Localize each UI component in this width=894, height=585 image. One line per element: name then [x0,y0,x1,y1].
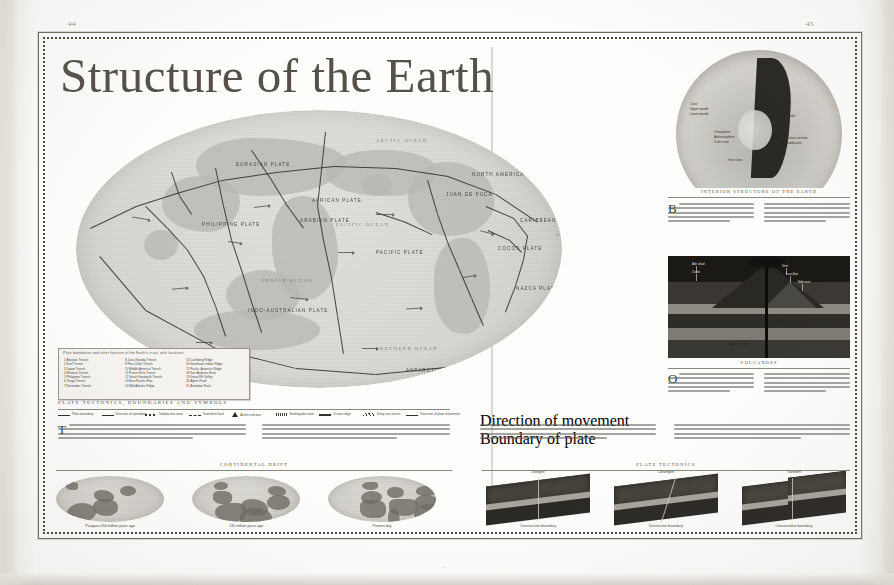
text-line [674,433,850,435]
text-line [480,437,607,439]
text-line [480,428,656,430]
volcano-label-6: Conduit [774,318,784,322]
text-line [674,428,850,430]
text-line [58,428,246,430]
continental-drift-caption-3: Present day [328,524,436,528]
text-line [764,203,850,205]
map-key-column-1: 1 Aleutian Trench2 Kuril Trench3 Japan T… [64,358,124,388]
right-text-3-column-2 [674,424,850,441]
earth-layer-label-6: Inner core [728,158,742,162]
right-text-3-column-1 [480,424,656,441]
earth-cutaway-caption: INTERIOR STRUCTURE OF THE EARTH [668,189,850,194]
map-plate-label-12: SCOTIA PLATE [554,348,562,353]
right-body-text-1: B [668,203,850,243]
text-line [764,386,850,388]
text-line [674,424,850,426]
map-key-item: 21 Anatolian Fault [186,384,246,388]
plate-tectonics-figure: PLATE TECTONICS DivergentConstructive bo… [482,462,850,534]
text-line [764,373,850,375]
volcano-layer-3 [668,314,850,328]
continental-drift-caption-2: 135 million years ago [192,524,300,528]
text-line [764,207,850,209]
dotted-band-icon [276,413,288,416]
right-text-2-column-1: O [668,373,754,394]
volcano-cross-section: Ash cloudCraterVentLava flowSide ventMag… [668,256,850,358]
symbol-legend-item: Transform fault [189,412,224,416]
volcano-rule [668,368,850,369]
earth-layer-label-3: Lithosphere [714,130,730,134]
thick-line-icon [319,414,331,416]
text-line [668,220,730,222]
left-text-column-1: T [58,424,246,441]
symbol-legend-item: Direction of plate movement [406,412,460,416]
map-plate-label-2: PACIFIC PLATE [376,250,424,255]
text-line [58,433,246,435]
plate-block-3: Transform [738,478,850,522]
symbol-legend-label: Subduction zone [159,412,183,416]
map-plate-label-1: NORTH AMERICAN PLATE [472,172,551,177]
continental-drift-globe-1 [56,476,164,522]
text-line [480,433,656,435]
text-line [58,437,193,439]
toothed-line-icon [145,414,157,416]
earth-layer-label-7: Mantle [786,114,795,118]
map-plate-label-11: CARIBBEAN PLATE [520,218,562,223]
scan-edge-bottom [0,573,894,585]
symbol-legend-rule [58,409,450,410]
text-line [764,390,826,392]
symbol-legend-heading: PLATE TECTONICS, BOUNDARIES AND SYMBOLS [58,400,228,405]
text-line [262,424,450,426]
page-title: Structure of the Earth [60,48,620,104]
map-plate-label-5: INDO-AUSTRALIAN PLATE [248,308,328,313]
volcano-layer-5 [668,340,850,358]
text-line [69,424,246,426]
right-body-text-2: O [668,373,850,411]
map-ocean-label-3: SOUTHERN OCEAN [376,346,438,351]
block-rift-seam [538,478,539,520]
map-plate-label-10: PHILIPPINE PLATE [202,222,260,227]
hatched-line-icon [363,413,375,416]
volcano-ash-plume [750,256,784,268]
text-line [668,377,754,379]
right-text-2-column-2 [764,373,850,394]
long-arrow-icon [406,415,418,416]
text-line [262,433,450,435]
continental-drift-rule [56,470,452,471]
solid-line-icon [58,415,70,416]
volcano-label-0: Ash cloud [692,262,705,266]
map-ocean-background: EURASIAN PLATENORTH AMERICAN PLATEPACIFI… [76,110,562,388]
earth-layer-label-2: Lower mantle [690,112,709,116]
plate-block-1: Divergent [482,478,594,522]
volcano-caption: VOLCANOES [668,360,850,365]
earth-core [738,110,772,150]
map-ocean-label-4: ARCTIC OCEAN [376,138,428,143]
text-line [668,390,730,392]
symbol-legend-label: Plate boundary [72,412,93,416]
map-ocean-label-0: PACIFIC OCEAN [336,222,389,227]
map-key-item: 7 Kermadec Trench [64,384,124,388]
volcano-label-5: Magma chamber [728,342,750,346]
text-line [480,424,656,426]
text-line [668,216,754,218]
continental-drift-globe-3 [328,476,436,522]
symbol-legend-label: Active volcano [240,413,261,417]
earth-cutaway-diagram: CrustUpper mantleLower mantleLithosphere… [668,46,850,188]
plate-block-caption-2: Destructive boundary [610,524,722,528]
symbol-legend-label: Ocean ridge [333,412,350,416]
earth-layer-label-1: Upper mantle [690,107,709,111]
text-line [668,212,754,214]
volcano-layer-4 [668,328,850,340]
map-plate-label-4: AFRICAN PLATE [312,198,362,203]
earth-layer-label-5: Outer core [714,140,729,144]
block-transform-seam [792,478,793,520]
arrow-line-icon [102,415,114,416]
text-line [668,382,754,384]
plate-block-title-2: Convergent [610,470,722,474]
scan-edge-left [0,0,18,585]
plate-block-title-1: Divergent [482,470,594,474]
symbol-legend-label: Transform fault [203,412,224,416]
symbol-legend-item: Ocean ridge [319,412,350,416]
text-line [764,377,850,379]
text-line [764,216,850,218]
map-plate-label-7: NAZCA PLATE [516,286,559,291]
